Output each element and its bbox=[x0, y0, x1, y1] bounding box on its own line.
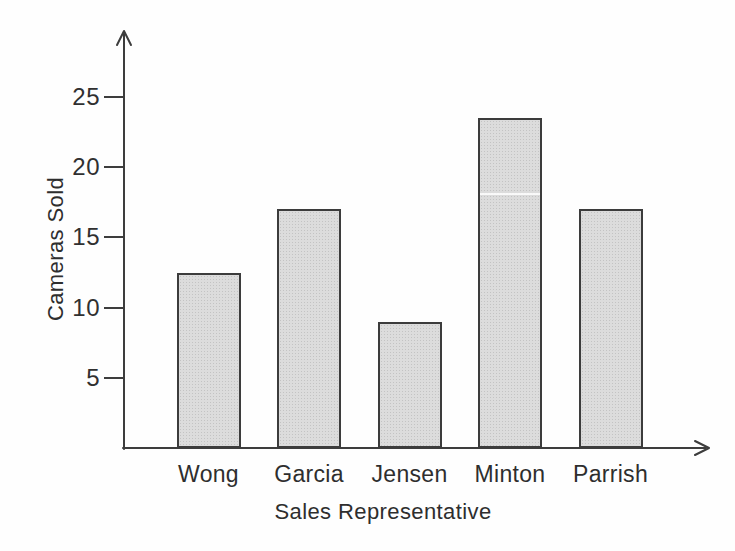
bar-minton bbox=[478, 118, 542, 448]
category-label-parrish: Parrish bbox=[551, 462, 671, 487]
scan-artifact bbox=[480, 193, 540, 195]
y-tick-mark-10 bbox=[104, 307, 123, 309]
bar-jensen bbox=[378, 322, 442, 448]
x-axis-title: Sales Representative bbox=[203, 499, 563, 525]
bar-wong bbox=[177, 273, 241, 449]
y-tick-mark-20 bbox=[104, 166, 123, 168]
bar-parrish bbox=[579, 209, 643, 448]
y-tick-mark-15 bbox=[104, 236, 123, 238]
y-axis-title: Cameras Sold bbox=[43, 149, 69, 349]
y-tick-mark-25 bbox=[104, 96, 123, 98]
y-tick-label-25: 25 bbox=[44, 85, 100, 109]
bar-chart-figure: 510152025 WongGarciaJensenMintonParrish … bbox=[0, 0, 735, 551]
bar-garcia bbox=[277, 209, 341, 448]
y-tick-mark-5 bbox=[104, 377, 123, 379]
y-tick-label-5: 5 bbox=[44, 366, 100, 390]
